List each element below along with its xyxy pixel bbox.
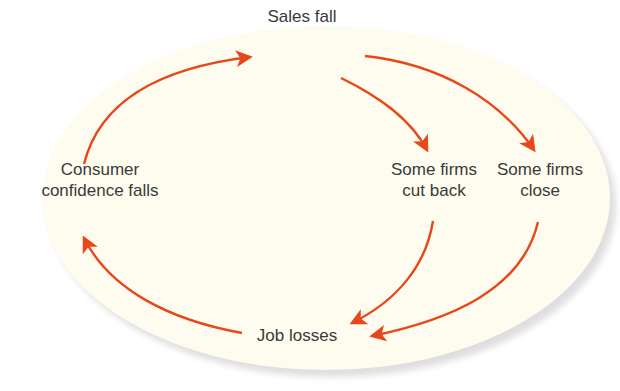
node-some-firms-cut-back: Some firms cut back <box>391 159 477 201</box>
node-consumer-confidence-falls: Consumer confidence falls <box>41 159 158 201</box>
node-label-line2: confidence falls <box>41 180 158 201</box>
node-label: Job losses <box>257 326 337 345</box>
node-label-line1: Consumer <box>41 159 158 180</box>
node-label-line1: Some firms <box>497 159 583 180</box>
node-some-firms-close: Some firms close <box>497 159 583 201</box>
node-label-line1: Some firms <box>391 159 477 180</box>
node-label-line2: close <box>497 180 583 201</box>
cycle-diagram: Sales fall Some firms cut back Some firm… <box>0 0 620 391</box>
node-label-line2: cut back <box>391 180 477 201</box>
node-job-losses: Job losses <box>257 325 337 346</box>
node-sales-fall: Sales fall <box>268 6 337 27</box>
node-label: Sales fall <box>268 7 337 26</box>
